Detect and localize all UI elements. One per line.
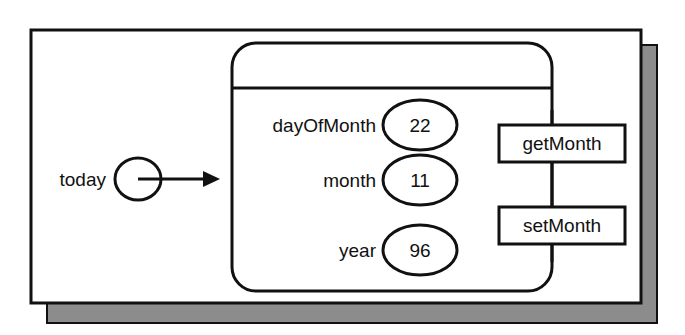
field-value-year: 96 bbox=[409, 240, 430, 261]
method-label-setmonth: setMonth bbox=[523, 215, 601, 236]
method-label-getmonth: getMonth bbox=[522, 133, 601, 154]
reference-label-today: today bbox=[60, 169, 107, 190]
field-name-dayofmonth: dayOfMonth bbox=[273, 115, 377, 136]
field-name-month: month bbox=[323, 170, 376, 191]
field-value-dayofmonth: 22 bbox=[409, 115, 430, 136]
object-diagram-canvas: dayOfMonth 22 month 11 year 96 getMonth … bbox=[0, 0, 685, 335]
diagram-page: dayOfMonth 22 month 11 year 96 getMonth … bbox=[0, 0, 685, 335]
field-name-year: year bbox=[339, 240, 377, 261]
field-value-month: 11 bbox=[410, 170, 430, 191]
